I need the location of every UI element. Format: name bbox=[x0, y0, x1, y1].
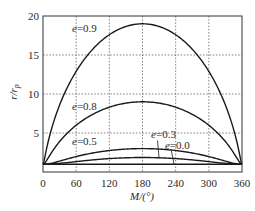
x-tick-label: 120 bbox=[101, 177, 118, 189]
x-tick-label: 240 bbox=[167, 177, 184, 189]
label-leader-line bbox=[171, 151, 174, 165]
curve-label: e=0.8 bbox=[72, 100, 97, 112]
y-tick-label: 10 bbox=[28, 88, 40, 100]
x-tick-label: 60 bbox=[71, 177, 83, 189]
x-tick-label: 0 bbox=[40, 177, 46, 189]
x-tick-label: 180 bbox=[134, 177, 151, 189]
y-axis-ticks: 5101520 bbox=[28, 10, 40, 139]
y-tick-label: 20 bbox=[28, 10, 40, 22]
y-tick-label: 15 bbox=[28, 49, 40, 61]
x-axis-label: M/(°) bbox=[129, 190, 154, 203]
x-axis-ticks: 060120180240300360 bbox=[40, 177, 251, 189]
curve-labels: e=0.9e=0.8e=0.5e=0.3e=0.0 bbox=[72, 22, 190, 164]
curve-label: e=0.0 bbox=[165, 139, 190, 151]
x-tick-label: 360 bbox=[234, 177, 251, 189]
y-tick-label: 5 bbox=[34, 127, 40, 139]
x-tick-label: 300 bbox=[201, 177, 218, 189]
curve-label: e=0.9 bbox=[72, 22, 97, 34]
orbit-radius-chart: 060120180240300360 5101520 e=0.9e=0.8e=0… bbox=[0, 0, 255, 211]
curve-label: e=0.5 bbox=[72, 135, 97, 147]
y-axis-label: r/rp bbox=[7, 84, 21, 100]
